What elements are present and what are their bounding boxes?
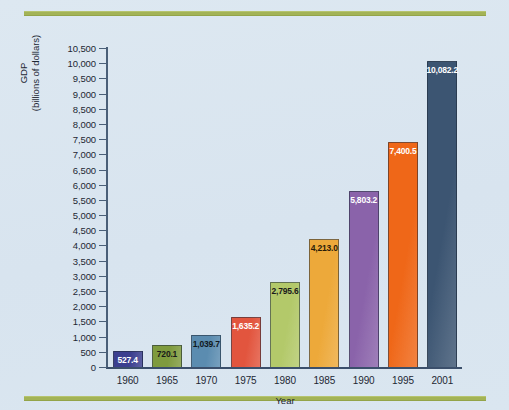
- bar-value-label: 527.4: [118, 355, 138, 365]
- bar-1995[interactable]: 7,400.5: [388, 142, 418, 367]
- x-axis-line: [106, 367, 462, 369]
- y-axis-tick: [99, 337, 107, 338]
- bar-value-label: 7,400.5: [390, 146, 417, 156]
- bar-value-label: 720.1: [157, 349, 177, 359]
- y-axis-tick-label: 5,500: [0, 194, 96, 205]
- bar-1970[interactable]: 1,039.7: [191, 335, 221, 367]
- y-axis-tick-label: 4,000: [0, 240, 96, 251]
- bar-1975[interactable]: 1,635.2: [231, 317, 261, 367]
- y-axis-tick-label: 8,500: [0, 103, 96, 114]
- y-axis-tick: [99, 276, 107, 277]
- bar-1960[interactable]: 527.4: [113, 351, 143, 367]
- bar-value-label: 5,803.2: [350, 195, 377, 205]
- bar-1985[interactable]: 4,213.0: [309, 239, 339, 367]
- y-axis-tick-label: 10,000: [0, 58, 96, 69]
- y-axis-tick-label: 6,500: [0, 164, 96, 175]
- x-axis-tick-label-1975: 1975: [226, 375, 265, 386]
- x-axis-tick-label-2001: 2001: [423, 375, 462, 386]
- y-axis-tick-label: 10,500: [0, 43, 96, 54]
- y-axis-tick: [99, 139, 107, 140]
- y-axis-tick: [99, 230, 107, 231]
- plot-area: 527.4720.11,039.71,635.22,795.64,213.05,…: [108, 48, 462, 367]
- y-axis-tick-label: 0: [0, 362, 96, 373]
- figure-canvas: GDP (billions of dollars) 05001,0001,500…: [0, 0, 509, 410]
- x-axis-title: Year: [108, 395, 462, 406]
- bar-1980[interactable]: 2,795.6: [270, 282, 300, 367]
- x-axis-tick-label-1970: 1970: [187, 375, 226, 386]
- y-axis-tick-label: 2,000: [0, 301, 96, 312]
- bar-value-label: 10,082.2: [427, 65, 459, 75]
- top-rule-divider: [24, 11, 486, 16]
- y-axis-tick: [99, 78, 107, 79]
- y-axis-tick-label: 4,500: [0, 225, 96, 236]
- x-axis-tick-label-1985: 1985: [305, 375, 344, 386]
- y-axis-tick-label: 9,000: [0, 88, 96, 99]
- y-axis-tick: [99, 306, 107, 307]
- y-axis-tick: [99, 261, 107, 262]
- bar-value-label: 2,795.6: [272, 286, 299, 296]
- y-axis-tick: [99, 124, 107, 125]
- x-axis-tick-label-1990: 1990: [344, 375, 383, 386]
- y-axis-tick: [99, 352, 107, 353]
- y-axis-tick-label: 9,500: [0, 73, 96, 84]
- y-axis-tick-label: 500: [0, 346, 96, 357]
- y-axis-tick: [99, 94, 107, 95]
- x-axis-tick-label-1995: 1995: [383, 375, 422, 386]
- bar-value-label: 4,213.0: [311, 243, 338, 253]
- y-axis-tick: [99, 367, 107, 368]
- bar-1965[interactable]: 720.1: [152, 345, 182, 367]
- bar-2001[interactable]: 10,082.2: [427, 61, 457, 367]
- y-axis-tick-label: 2,500: [0, 286, 96, 297]
- y-axis-tick-label: 7,000: [0, 149, 96, 160]
- y-axis-tick-label: 3,000: [0, 270, 96, 281]
- y-axis-tick-label: 3,500: [0, 255, 96, 266]
- gdp-bar-chart: GDP (billions of dollars) 05001,0001,500…: [0, 18, 509, 388]
- y-axis-tick: [99, 185, 107, 186]
- y-axis-tick: [99, 200, 107, 201]
- y-axis-tick-label: 5,000: [0, 210, 96, 221]
- x-axis-tick-label-1960: 1960: [108, 375, 147, 386]
- y-axis-tick-label: 8,000: [0, 118, 96, 129]
- y-axis-tick: [99, 321, 107, 322]
- x-axis-tick-label-1965: 1965: [147, 375, 186, 386]
- y-axis-tick-label: 7,500: [0, 134, 96, 145]
- x-axis-tick-label-1980: 1980: [265, 375, 304, 386]
- bar-value-label: 1,039.7: [193, 339, 220, 349]
- y-axis-tick: [99, 291, 107, 292]
- bar-1990[interactable]: 5,803.2: [349, 191, 379, 367]
- y-axis-tick: [99, 245, 107, 246]
- y-axis-tick: [99, 48, 107, 49]
- y-axis-tick: [99, 215, 107, 216]
- y-axis-tick-label: 1,000: [0, 331, 96, 342]
- y-axis-tick-label: 1,500: [0, 316, 96, 327]
- y-axis-tick: [99, 109, 107, 110]
- bar-value-label: 1,635.2: [232, 321, 259, 331]
- y-axis-tick-label: 6,000: [0, 179, 96, 190]
- y-axis-tick: [99, 63, 107, 64]
- y-axis-tick: [99, 154, 107, 155]
- y-axis-tick: [99, 170, 107, 171]
